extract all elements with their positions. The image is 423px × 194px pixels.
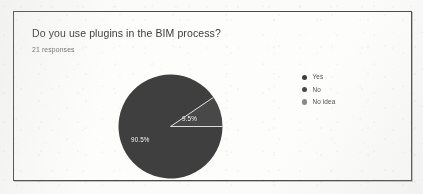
pie-chart-svg	[118, 74, 223, 179]
legend-dot-icon	[302, 99, 307, 104]
legend-item-yes[interactable]: Yes	[302, 71, 392, 83]
legend-item-no-idea[interactable]: No idea	[302, 96, 392, 108]
scanned-page: Do you use plugins in the BIM process? 2…	[0, 0, 423, 194]
form-response-card: Do you use plugins in the BIM process? 2…	[13, 11, 412, 181]
page-title: Do you use plugins in the BIM process?	[32, 27, 221, 40]
legend-item-label: No	[312, 86, 320, 94]
chart-legend: Yes No No idea	[302, 71, 392, 108]
pie-chart: 9.5% 90.5%	[118, 74, 223, 179]
slice-label-no: 9.5%	[182, 115, 197, 122]
legend-dot-icon	[302, 87, 307, 92]
legend-item-label: No idea	[312, 98, 335, 106]
legend-item-label: Yes	[312, 73, 323, 81]
legend-dot-icon	[302, 75, 307, 80]
legend-item-no[interactable]: No	[302, 83, 392, 95]
response-count: 21 responses	[32, 45, 75, 54]
slice-label-yes: 90.5%	[131, 136, 150, 143]
